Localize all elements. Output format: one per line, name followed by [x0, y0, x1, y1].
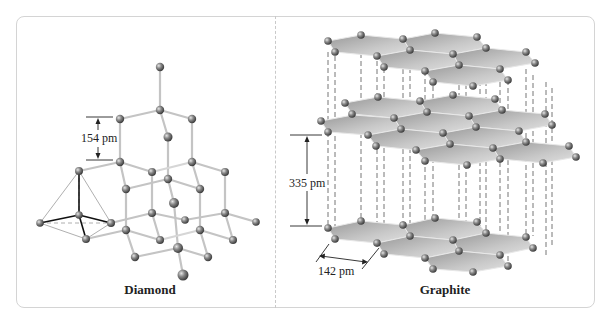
- graphite-caption: Graphite: [400, 282, 490, 298]
- diamond-structure: [36, 63, 260, 281]
- graphite-interlayer-spacing-label: 335 pm: [289, 176, 325, 190]
- graphite-layer-middle: [321, 95, 576, 165]
- graphite-bond-length-label: 142 pm: [318, 264, 354, 278]
- graphite-layer-top: [328, 33, 535, 86]
- graphite-layer-bottom: [328, 218, 533, 272]
- tetrahedron-outline: [40, 171, 111, 239]
- diamond-caption: Diamond: [110, 282, 190, 298]
- diamond-bond-length-label: 154 pm: [81, 131, 117, 145]
- graphite-structure: [290, 29, 580, 276]
- structure-diagrams: [0, 0, 614, 322]
- diamond-bonds: [79, 67, 256, 275]
